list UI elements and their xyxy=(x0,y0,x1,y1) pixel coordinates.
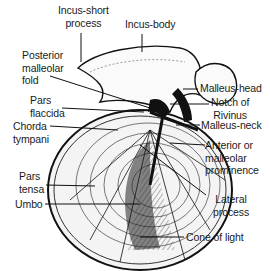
label-pars-flaccida: Pars flaccida xyxy=(30,94,65,119)
label-notch-of-rivinus: Notch of Rivinus xyxy=(211,96,249,121)
tympanic-membrane xyxy=(48,110,232,270)
label-malleus-head: Malleus-head xyxy=(200,82,262,95)
label-lateral-process: Lateral process xyxy=(213,193,249,218)
label-incus-short-process: Incus-short process xyxy=(58,4,109,29)
label-posterior-malleolar-fold: Posterior malleolar fold xyxy=(22,49,64,87)
label-incus-body: Incus-body xyxy=(125,18,175,31)
label-umbo: Umbo xyxy=(15,198,43,211)
label-cone-of-light: Cone of light xyxy=(186,231,244,244)
label-anterior-malleolar-prominence: Anterior or malleolar prominence xyxy=(205,139,259,177)
label-pars-tensa: Pars tensa xyxy=(19,170,44,195)
label-malleus-neck: Malleus-neck xyxy=(201,119,262,132)
label-chorda-tympani: Chorda tympani xyxy=(13,120,49,145)
